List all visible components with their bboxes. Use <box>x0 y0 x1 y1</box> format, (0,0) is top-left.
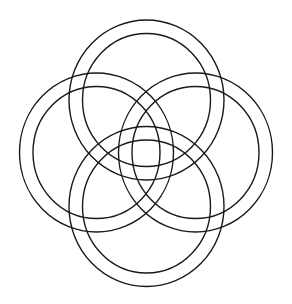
ring-top-outer <box>69 20 224 180</box>
ring-bottom-inner <box>83 140 211 273</box>
ring-top <box>69 20 224 180</box>
ring-bottom <box>69 127 224 287</box>
overlapping-rings-diagram <box>0 0 292 304</box>
ring-left-outer <box>20 73 174 232</box>
ring-right <box>119 73 273 232</box>
ring-top-inner <box>83 34 211 167</box>
ring-bottom-outer <box>69 127 224 287</box>
ring-left <box>20 73 174 232</box>
ring-right-inner <box>132 87 259 219</box>
ring-left-inner <box>33 87 160 219</box>
ring-right-outer <box>119 73 273 232</box>
